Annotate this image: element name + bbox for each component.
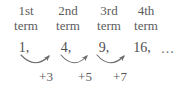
difference-label-3: +7 — [103, 69, 137, 84]
difference-label-2: +5 — [68, 69, 102, 84]
difference-arrow-3 — [97, 55, 124, 63]
difference-label-1: +3 — [29, 69, 63, 84]
difference-arrow-2 — [61, 55, 87, 63]
sequence-figure: 1st term 2nd term 3rd term 4th term 1, 4… — [0, 0, 181, 92]
difference-arrow-1 — [21, 55, 49, 63]
